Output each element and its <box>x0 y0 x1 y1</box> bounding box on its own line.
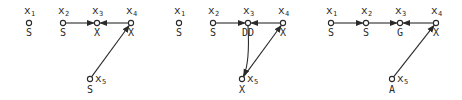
node-state-x5: A <box>389 84 395 95</box>
node-subscript-x5: 5 <box>254 78 258 86</box>
node-subscript-x1: 1 <box>31 10 35 18</box>
node-x3 <box>245 20 250 25</box>
node-label-x3: x <box>92 4 99 17</box>
node-label-x4: x <box>431 4 438 17</box>
node-state-x3: X <box>94 27 100 38</box>
node-x1 <box>176 20 181 25</box>
node-x5 <box>239 76 244 81</box>
node-subscript-x5: 5 <box>404 78 408 86</box>
node-state-x2: S <box>210 27 216 38</box>
node-label-x3: x <box>243 4 250 17</box>
node-state-x1: S <box>176 27 182 38</box>
node-x4 <box>128 20 133 25</box>
node-label-x1: x <box>326 4 333 17</box>
node-subscript-x2: 2 <box>368 10 372 18</box>
node-x4 <box>433 20 438 25</box>
node-x5 <box>389 76 394 81</box>
node-state-x1: S <box>328 27 334 38</box>
node-state-x1: S <box>26 27 32 38</box>
node-label-x1: x <box>174 4 181 17</box>
node-x1 <box>328 20 333 25</box>
panel-2: x1Sx2Sx3DDx4Xx5X <box>174 4 289 95</box>
node-label-x4: x <box>126 4 133 17</box>
node-x3 <box>94 20 99 25</box>
node-label-x3: x <box>395 4 402 17</box>
node-label-x2: x <box>58 4 65 17</box>
node-x2 <box>210 20 215 25</box>
node-subscript-x4: 4 <box>285 10 289 18</box>
node-label-x5: x <box>247 72 254 85</box>
node-subscript-x4: 4 <box>133 10 137 18</box>
node-subscript-x2: 2 <box>65 10 69 18</box>
node-state-x5: X <box>239 84 245 95</box>
node-x1 <box>26 20 31 25</box>
node-subscript-x1: 1 <box>333 10 337 18</box>
panel-3: x1Sx2Sx3Gx4Xx5A <box>326 4 442 95</box>
node-x3 <box>397 20 402 25</box>
node-subscript-x3: 3 <box>250 10 254 18</box>
node-state-x4: X <box>280 27 286 38</box>
node-state-x2: S <box>363 27 369 38</box>
node-state-x2: S <box>60 27 66 38</box>
node-x4 <box>280 20 285 25</box>
node-state-x4: X <box>433 27 439 38</box>
node-x2 <box>60 20 65 25</box>
node-state-x3: G <box>397 27 403 38</box>
node-label-x2: x <box>208 4 215 17</box>
node-label-x1: x <box>24 4 31 17</box>
node-subscript-x2: 2 <box>215 10 219 18</box>
node-x2 <box>363 20 368 25</box>
node-subscript-x3: 3 <box>99 10 103 18</box>
node-state-x3: DD <box>242 27 254 38</box>
panel-1: x1Sx2Sx3Xx4Xx5S <box>24 4 137 95</box>
node-x5 <box>87 76 92 81</box>
diagram-canvas: x1Sx2Sx3Xx4Xx5Sx1Sx2Sx3DDx4Xx5Xx1Sx2Sx3G… <box>0 0 462 100</box>
node-label-x5: x <box>95 72 102 85</box>
node-state-x4: X <box>128 27 134 38</box>
node-subscript-x3: 3 <box>402 10 406 18</box>
node-subscript-x4: 4 <box>438 10 442 18</box>
node-subscript-x1: 1 <box>181 10 185 18</box>
node-subscript-x5: 5 <box>102 78 106 86</box>
node-label-x5: x <box>397 72 404 85</box>
node-label-x4: x <box>278 4 285 17</box>
node-label-x2: x <box>361 4 368 17</box>
node-state-x5: S <box>87 84 93 95</box>
